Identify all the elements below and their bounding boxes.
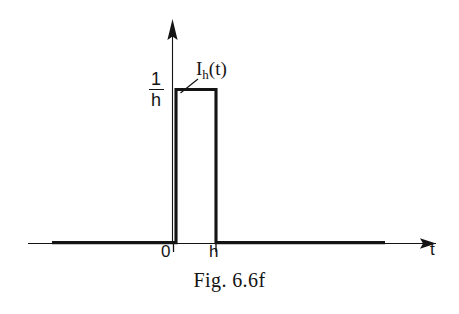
tick-label-pulse-width: h [209, 243, 218, 260]
y-value-denominator: h [143, 91, 169, 109]
tick-label-origin: 0 [161, 243, 170, 260]
figure-caption: Fig. 6.6f [0, 270, 459, 290]
figure-container: 1 h Ih(t) 0 h t Fig. 6.6f [0, 0, 459, 314]
plot-canvas [0, 0, 459, 314]
signal-label: Ih(t) [196, 59, 227, 81]
y-value-label: 1 h [143, 70, 169, 109]
x-axis-label: t [430, 241, 435, 258]
signal-label-argument: (t) [209, 58, 227, 79]
y-value-numerator: 1 [143, 70, 169, 88]
signal-curve-pulse [52, 90, 385, 243]
